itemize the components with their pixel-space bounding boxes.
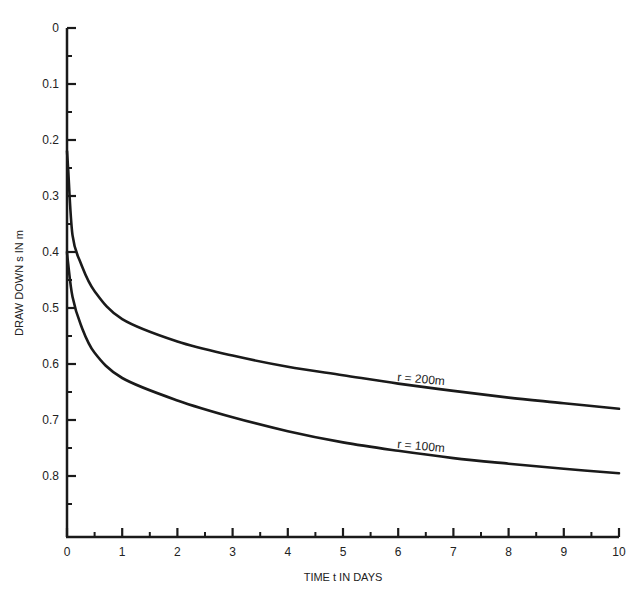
x-tick-label: 3 [229,545,236,559]
y-tick-label: 0.3 [42,189,59,203]
curve-r-200m [67,151,619,409]
y-tick-label: 0.5 [42,301,59,315]
x-tick-label: 0 [64,545,71,559]
y-tick-label: 0.2 [42,133,59,147]
y-tick-label: 0 [52,21,59,35]
x-tick-label: 10 [612,545,626,559]
y-tick-label: 0.6 [42,357,59,371]
curves [67,151,619,473]
curve-labels: r = 200mr = 100m [397,370,446,455]
x-tick-label: 4 [284,545,291,559]
x-tick-label: 1 [119,545,126,559]
x-tick-label: 9 [560,545,567,559]
x-axis-title: TIME t IN DAYS [304,571,383,583]
x-tick-label: 2 [174,545,181,559]
x-tick-label: 6 [395,545,402,559]
x-tick-label: 8 [505,545,512,559]
x-axis: 012345678910 [64,528,626,559]
y-tick-label: 0.4 [42,245,59,259]
drawdown-chart: 00.10.20.30.40.50.60.70.8 012345678910 r… [0,0,634,605]
x-tick-label: 5 [340,545,347,559]
y-tick-label: 0.8 [42,469,59,483]
y-axis-title: DRAW DOWN s IN m [13,230,25,336]
y-tick-label: 0.7 [42,413,59,427]
x-tick-label: 7 [450,545,457,559]
curve-r-100m [67,252,619,473]
y-tick-label: 0.1 [42,77,59,91]
